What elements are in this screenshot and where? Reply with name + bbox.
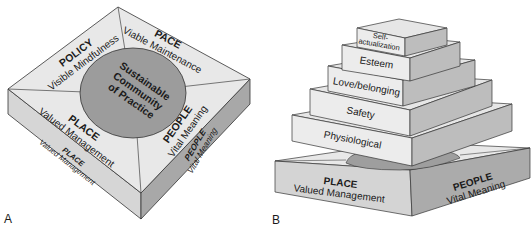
- figure-label-a: A: [4, 212, 12, 226]
- figure-b: Self- actualization Esteem Love/belongin…: [272, 19, 530, 227]
- figure-label-b: B: [272, 213, 280, 227]
- figure-a: Sustainable Community of Practice POLICY…: [4, 7, 250, 226]
- diagram-canvas: Sustainable Community of Practice POLICY…: [0, 0, 532, 229]
